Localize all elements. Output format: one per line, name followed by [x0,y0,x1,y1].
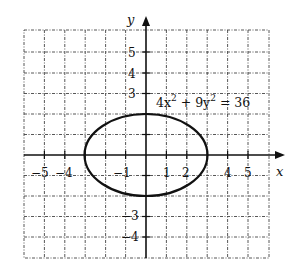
x-axis-label: x [276,164,284,179]
y-tick-label: 5 [128,46,136,60]
x-tick-label: 5 [244,166,252,180]
x-tick-label: 2 [182,166,190,180]
y-tick-label: −4 [121,230,139,244]
graph: y x −5 −4 −1 1 2 4 5 5 4 3 −3 −4 4x2 + 9… [0,0,296,276]
y-tick-label: 3 [128,87,136,101]
equation-label: 4x2 + 9y2 = 36 [156,93,250,110]
y-axis-arrow-icon [142,16,150,26]
x-tick-label: 4 [224,166,232,180]
x-tick-label: −5 [31,166,49,180]
x-axis [24,151,285,159]
x-axis-arrow-icon [275,151,285,159]
x-tick-label: 1 [163,166,171,180]
y-tick-label: 4 [128,67,136,81]
y-axis-label: y [126,12,135,27]
x-tick-label: −1 [113,166,131,180]
y-tick-label: −3 [121,209,139,223]
x-tick-label: −4 [55,166,73,180]
